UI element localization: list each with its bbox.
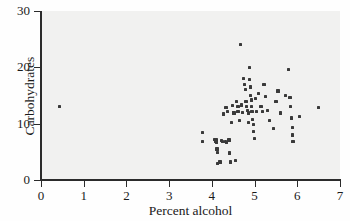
data-point xyxy=(248,78,251,81)
data-point xyxy=(276,89,279,92)
data-point xyxy=(244,88,247,91)
data-point xyxy=(298,115,301,118)
data-point xyxy=(226,110,229,113)
data-point xyxy=(250,110,253,113)
data-point xyxy=(274,100,277,103)
data-point xyxy=(266,109,269,112)
data-point xyxy=(224,106,227,109)
data-point xyxy=(201,131,204,134)
data-point xyxy=(234,159,237,162)
scatter-plot-figure: 010203001234567 Percent alcohol Carbohyd… xyxy=(0,0,350,221)
data-point xyxy=(251,118,254,121)
data-point xyxy=(254,97,257,100)
data-point xyxy=(249,94,252,97)
data-point xyxy=(264,95,267,98)
data-point xyxy=(261,110,264,113)
data-point xyxy=(291,140,294,143)
data-point xyxy=(262,83,265,86)
data-point xyxy=(252,130,255,133)
data-point xyxy=(237,110,240,113)
data-point xyxy=(243,83,246,86)
data-point xyxy=(291,126,294,129)
data-point xyxy=(216,151,219,154)
data-points-layer xyxy=(0,0,350,221)
data-point xyxy=(255,110,258,113)
data-point xyxy=(268,119,271,122)
data-point xyxy=(236,105,239,108)
data-point xyxy=(231,104,234,107)
x-axis-title: Percent alcohol xyxy=(41,203,340,219)
data-point xyxy=(247,111,250,114)
data-point xyxy=(228,151,231,154)
data-point xyxy=(272,127,275,130)
data-point xyxy=(317,106,320,109)
data-point xyxy=(245,105,248,108)
data-point xyxy=(230,121,233,124)
data-point xyxy=(259,105,262,108)
data-point xyxy=(290,116,293,119)
data-point xyxy=(235,100,238,103)
data-point xyxy=(239,43,242,46)
data-point xyxy=(284,94,287,97)
data-point xyxy=(218,160,221,163)
data-point xyxy=(222,112,225,115)
data-point xyxy=(244,100,247,103)
y-axis-title: Carbohydrates xyxy=(22,16,38,176)
data-point xyxy=(215,141,218,144)
data-point xyxy=(291,133,294,136)
data-point xyxy=(229,160,232,163)
data-point xyxy=(58,105,61,108)
data-point xyxy=(250,98,253,101)
data-point xyxy=(249,85,252,88)
data-point xyxy=(241,111,244,114)
data-point xyxy=(252,123,255,126)
data-point xyxy=(247,121,250,124)
data-point xyxy=(227,138,230,141)
data-point xyxy=(257,92,260,95)
data-point xyxy=(287,68,290,71)
data-point xyxy=(288,96,291,99)
data-point xyxy=(240,103,243,106)
data-point xyxy=(253,137,256,140)
data-point xyxy=(279,111,282,114)
data-point xyxy=(242,77,245,80)
data-point xyxy=(250,105,253,108)
data-point xyxy=(248,66,251,69)
data-point xyxy=(215,138,218,141)
data-point xyxy=(238,119,241,122)
data-point xyxy=(289,105,292,108)
data-point xyxy=(201,140,204,143)
